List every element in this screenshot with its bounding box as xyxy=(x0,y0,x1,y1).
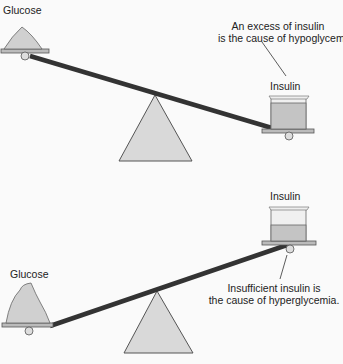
top-annotation-line1: An excess of insulin xyxy=(218,20,338,32)
top-annotation-pointer xyxy=(262,42,286,76)
top-seesaw xyxy=(1,27,314,161)
top-glucose-pile-icon xyxy=(4,27,42,49)
top-annotation: An excess of insulin is the cause of hyp… xyxy=(218,20,338,44)
top-insulin-label: Insulin xyxy=(270,80,300,92)
bottom-fulcrum xyxy=(124,291,193,353)
bottom-insulin-beaker-icon xyxy=(269,207,309,241)
bottom-annotation-line2: the cause of hyperglycemia. xyxy=(205,294,343,306)
bottom-annotation: Insufficient insulin is the cause of hyp… xyxy=(205,282,343,306)
bottom-seesaw xyxy=(2,207,316,353)
top-annotation-line2: is the cause of hypoglycemia. xyxy=(218,32,338,44)
bottom-glucose-pile-icon xyxy=(6,283,50,323)
bottom-glucose-label: Glucose xyxy=(10,268,49,280)
bottom-annotation-pointer xyxy=(280,255,287,279)
bottom-insulin-label: Insulin xyxy=(270,190,300,202)
top-fulcrum xyxy=(119,95,192,161)
seesaw-diagram xyxy=(0,0,343,364)
top-glucose-label: Glucose xyxy=(3,4,42,16)
top-insulin-beaker-icon xyxy=(269,96,309,129)
bottom-annotation-line1: Insufficient insulin is xyxy=(205,282,343,294)
